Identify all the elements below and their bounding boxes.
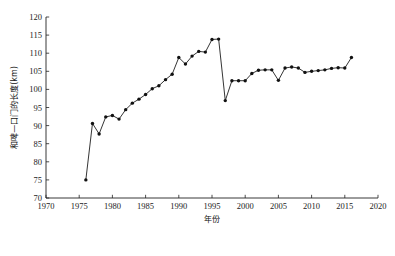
x-axis: 1970197519801985199019952000200520102015… <box>38 195 387 211</box>
y-tick-label: 100 <box>29 84 42 94</box>
data-point <box>270 68 273 71</box>
data-point <box>91 122 94 125</box>
y-tick-label: 80 <box>34 157 43 167</box>
y-tick-label: 90 <box>34 121 43 131</box>
data-point <box>336 66 339 69</box>
data-point <box>330 67 333 70</box>
data-point <box>350 56 353 59</box>
y-tick-label: 115 <box>30 30 42 40</box>
y-tick-label: 120 <box>29 12 42 22</box>
data-point <box>144 93 147 96</box>
y-tick-label: 105 <box>29 66 42 76</box>
data-point <box>263 68 266 71</box>
line-chart-plot: 707580859095100105110115120 197019751980… <box>0 0 395 256</box>
data-point <box>190 54 193 57</box>
data-point <box>217 37 220 40</box>
data-point <box>323 68 326 71</box>
y-axis: 707580859095100105110115120 <box>29 12 49 203</box>
data-point <box>177 56 180 59</box>
x-tick-label: 2020 <box>370 201 387 211</box>
y-tick-label: 110 <box>30 48 42 58</box>
data-point <box>290 65 293 68</box>
x-tick-label: 1980 <box>104 201 121 211</box>
data-point <box>164 78 167 81</box>
chart-figure: 707580859095100105110115120 197019751980… <box>0 0 395 256</box>
data-point <box>170 73 173 76</box>
data-point <box>197 50 200 53</box>
x-tick-label: 2010 <box>303 201 320 211</box>
data-point <box>97 132 100 135</box>
x-tick-label: 1975 <box>71 201 88 211</box>
data-point <box>230 79 233 82</box>
data-point <box>257 69 260 72</box>
data-point <box>104 115 107 118</box>
data-point <box>204 50 207 53</box>
data-point <box>343 66 346 69</box>
x-tick-label: 2000 <box>237 201 254 211</box>
data-point <box>317 69 320 72</box>
data-point <box>117 117 120 120</box>
data-point <box>277 79 280 82</box>
data-point <box>250 72 253 75</box>
y-tick-label: 75 <box>34 175 43 185</box>
data-point <box>184 62 187 65</box>
data-point <box>151 87 154 90</box>
data-point <box>131 101 134 104</box>
data-point <box>124 108 127 111</box>
x-tick-label: 1970 <box>38 201 55 211</box>
x-tick-label: 2005 <box>270 201 287 211</box>
x-tick-label: 2015 <box>336 201 353 211</box>
data-series <box>84 37 353 181</box>
x-tick-label: 1990 <box>170 201 187 211</box>
data-point <box>283 66 286 69</box>
data-point <box>237 79 240 82</box>
x-axis-title: 年份 <box>204 214 220 224</box>
data-point <box>297 66 300 69</box>
x-tick-label: 1985 <box>137 201 154 211</box>
data-point <box>111 114 114 117</box>
data-point <box>310 70 313 73</box>
data-point <box>210 38 213 41</box>
data-point <box>137 97 140 100</box>
y-axis-title: 和啤—口门的长度(km) <box>9 66 19 149</box>
y-tick-label: 85 <box>34 139 43 149</box>
x-tick-label: 1995 <box>204 201 221 211</box>
data-point <box>244 79 247 82</box>
data-point <box>84 178 87 181</box>
data-point <box>303 71 306 74</box>
y-tick-label: 95 <box>34 103 43 113</box>
data-point <box>157 84 160 87</box>
data-point <box>224 99 227 102</box>
